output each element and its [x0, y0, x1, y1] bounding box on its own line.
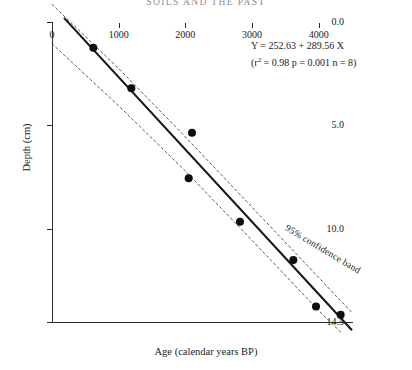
data-point [236, 218, 244, 226]
data-point [185, 174, 193, 182]
data-point [289, 256, 297, 264]
data-point [188, 129, 196, 137]
figure-canvas: SOILS AND THE PAST 010002000300040000.05… [0, 0, 412, 370]
regression-annotation: Y = 252.63 + 289.56 X (r2 = 0.98 p = 0.0… [251, 38, 356, 70]
x-axis-title: Age (calendar years BP) [0, 346, 412, 357]
data-point [89, 44, 97, 52]
regression-statistics: (r2 = 0.98 p = 0.001 n = 8) [251, 53, 356, 70]
y-axis-title: Depth (cm) [21, 98, 32, 198]
y-tick [47, 322, 52, 323]
x-axis-line [52, 322, 353, 323]
regression-equation: Y = 252.63 + 289.56 X [251, 38, 356, 53]
stats-prefix: (r [251, 57, 258, 68]
confidence-band-lower [52, 44, 342, 334]
stats-rest: = 0.98 p = 0.001 n = 8) [261, 57, 356, 68]
data-point [312, 302, 320, 310]
data-point [337, 311, 345, 319]
data-points [89, 44, 344, 319]
running-header: SOILS AND THE PAST [0, 0, 412, 6]
data-point [127, 84, 135, 92]
